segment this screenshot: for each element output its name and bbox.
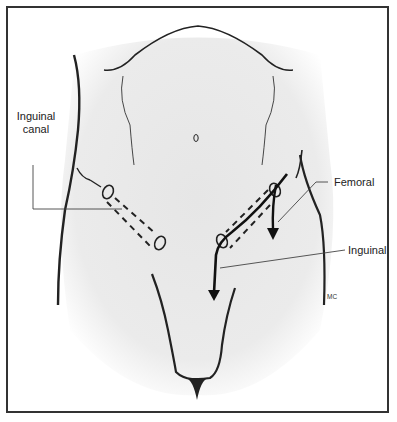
artist-credit: MC <box>327 290 337 303</box>
inguinal-label: Inguinal <box>348 244 387 257</box>
body-silhouette <box>61 38 333 396</box>
anatomy-diagram <box>0 0 397 422</box>
label-line-2: canal <box>14 123 58 136</box>
inguinal-canal-label: Inguinal canal <box>14 110 58 136</box>
label-line-1: Inguinal <box>14 110 58 123</box>
femoral-label: Femoral <box>334 176 374 189</box>
